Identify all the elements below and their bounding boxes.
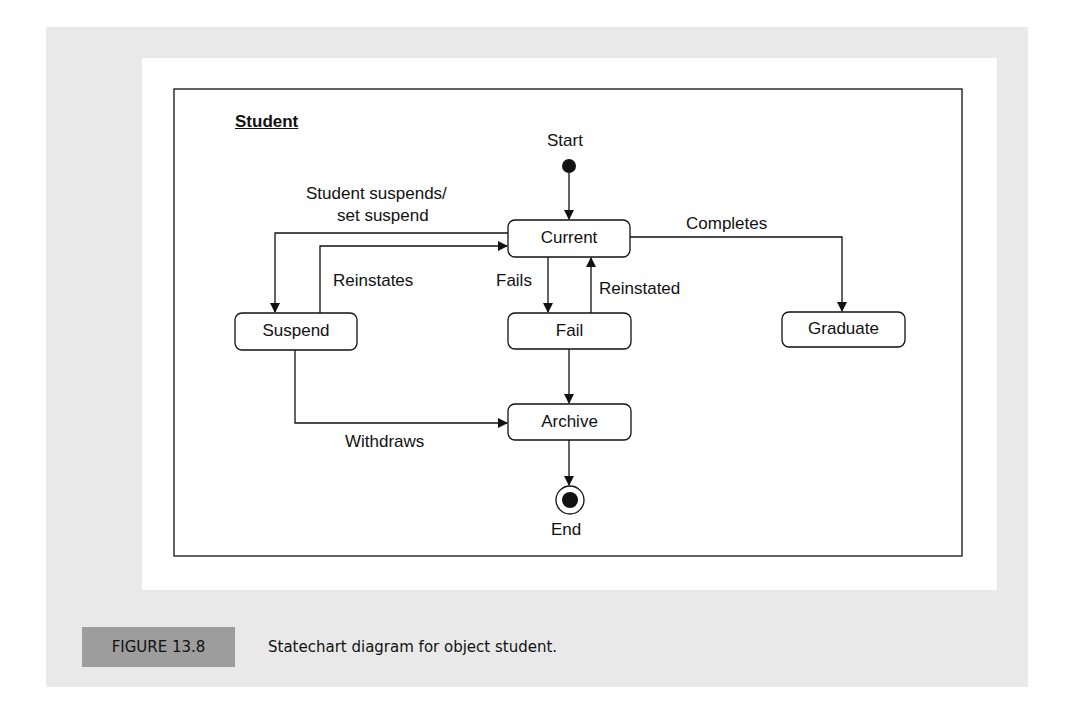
statechart-diagram [0,0,1068,719]
transition-label-fails: Fails [496,271,532,291]
figure-caption: Statechart diagram for object student. [268,627,557,667]
transition-label-reinstated: Reinstated [599,279,680,299]
transition-suspend-archive [295,350,507,423]
start-label: Start [547,131,583,151]
figure-number-badge: FIGURE 13.8 [82,627,235,667]
transition-label-reinstates: Reinstates [333,271,413,291]
state-suspend-label: Suspend [235,321,357,341]
transition-label-suspends-line2: set suspend [337,206,429,226]
start-node-icon [562,159,576,173]
state-fail-label: Fail [508,321,631,341]
state-archive-label: Archive [508,412,631,432]
state-current-label: Current [508,228,630,248]
object-title: Student [235,112,298,132]
end-label: End [551,520,581,540]
transition-label-withdraws: Withdraws [345,432,424,452]
transition-current-graduate [630,237,842,311]
transition-label-completes: Completes [686,214,767,234]
transition-label-suspends-line1: Student suspends/ [306,184,447,204]
state-graduate-label: Graduate [782,319,905,339]
